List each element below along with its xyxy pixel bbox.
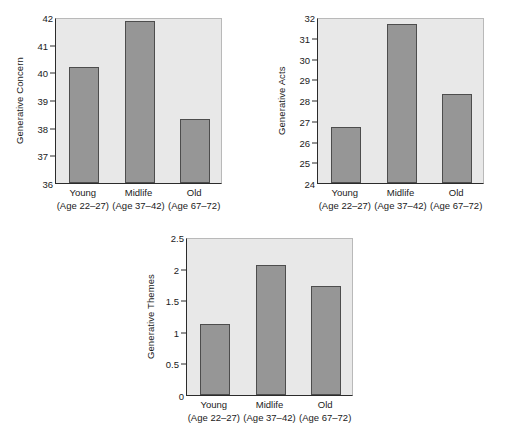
- bar: [256, 265, 286, 395]
- x-axis-tick: Old(Age 67–72): [430, 187, 482, 212]
- x-axis-category-sublabel: (Age 67–72): [168, 199, 220, 212]
- y-axis-tick: 25: [299, 158, 317, 169]
- y-axis-tick-label: 29: [299, 75, 312, 86]
- bar: [200, 324, 230, 395]
- y-axis-tick-label: 41: [37, 40, 50, 51]
- x-axis-tick: Midlife(Age 37–42): [112, 187, 164, 212]
- plot-area: [317, 18, 484, 184]
- bars-container: [56, 19, 221, 183]
- x-axis-category-sublabel: (Age 67–72): [430, 199, 482, 212]
- y-axis-tick: 28: [299, 96, 317, 107]
- y-axis-tick-label: 0.5: [166, 359, 181, 370]
- y-axis-tick: 27: [299, 116, 317, 127]
- y-axis-tick-label: 27: [299, 116, 312, 127]
- x-axis-tick: Young(Age 22–27): [57, 187, 109, 212]
- y-axis-tick: 40: [37, 68, 55, 79]
- x-axis-tick: Old(Age 67–72): [299, 399, 351, 424]
- x-axis-tick: Young(Age 22–27): [319, 187, 371, 212]
- y-axis-ticks: 242526272829303132: [284, 18, 317, 184]
- bars-container: [187, 239, 352, 395]
- y-axis-tick-label: 32: [304, 13, 317, 24]
- bar: [69, 67, 99, 183]
- x-axis-category-sublabel: (Age 37–42): [374, 199, 426, 212]
- y-axis-tick-label: 36: [42, 179, 55, 190]
- y-axis-tick: 30: [299, 54, 317, 65]
- y-axis-tick: 0.5: [166, 359, 186, 370]
- x-axis-tick: Old(Age 67–72): [168, 187, 220, 212]
- chart-generative-acts: Generative Acts 242526272829303132 Young…: [262, 0, 512, 215]
- x-axis-category-label: Young: [57, 187, 109, 199]
- y-axis-tick-label: 1: [174, 327, 181, 338]
- chart-generative-concern: Generative Concern 36373839404142 Young(…: [0, 0, 250, 215]
- bar: [180, 119, 210, 183]
- y-axis-tick-label: 28: [299, 96, 312, 107]
- x-axis-tick: Midlife(Age 37–42): [243, 399, 295, 424]
- y-axis-tick-label: 2.5: [171, 233, 186, 244]
- y-axis-tick-label: 42: [42, 13, 55, 24]
- y-axis-tick: 26: [299, 137, 317, 148]
- y-axis-tick-label: 30: [299, 54, 312, 65]
- bars-container: [318, 19, 483, 183]
- x-axis-category-label: Young: [319, 187, 371, 199]
- y-axis-tick: 42: [42, 13, 55, 24]
- y-axis-tick-label: 0: [179, 391, 186, 402]
- x-axis-category-label: Midlife: [112, 187, 164, 199]
- y-axis-tick-label: 37: [37, 151, 50, 162]
- x-axis-category-sublabel: (Age 22–27): [188, 411, 240, 424]
- bar: [387, 24, 417, 183]
- y-axis-tick: 0: [179, 391, 186, 402]
- x-axis-tick: Midlife(Age 37–42): [374, 187, 426, 212]
- plot-area: [186, 238, 353, 396]
- y-axis-tick-label: 26: [299, 137, 312, 148]
- x-axis-category-sublabel: (Age 67–72): [299, 411, 351, 424]
- y-axis-tick: 39: [37, 96, 55, 107]
- y-axis-tick-label: 38: [37, 123, 50, 134]
- x-axis-category-label: Old: [168, 187, 220, 199]
- x-axis-category-sublabel: (Age 22–27): [319, 199, 371, 212]
- y-axis-tick-label: 39: [37, 96, 50, 107]
- y-axis-tick-label: 2: [174, 264, 181, 275]
- y-axis-tick: 1: [174, 327, 186, 338]
- x-axis-tick: Young(Age 22–27): [188, 399, 240, 424]
- y-axis-tick-label: 25: [299, 158, 312, 169]
- y-axis-tick-label: 40: [37, 68, 50, 79]
- x-axis-category-label: Midlife: [374, 187, 426, 199]
- y-axis-tick: 37: [37, 151, 55, 162]
- y-axis-tick: 38: [37, 123, 55, 134]
- y-axis-ticks: 36373839404142: [22, 18, 55, 184]
- y-axis-tick: 1.5: [166, 296, 186, 307]
- chart-generative-themes: Generative Themes 00.511.522.5 Young(Age…: [131, 228, 381, 438]
- y-axis-tick-label: 24: [304, 179, 317, 190]
- bar: [331, 127, 361, 183]
- x-axis-category-sublabel: (Age 22–27): [57, 199, 109, 212]
- y-axis-tick: 32: [304, 13, 317, 24]
- x-axis-category-label: Young: [188, 399, 240, 411]
- plot-area: [55, 18, 222, 184]
- y-axis-tick: 29: [299, 75, 317, 86]
- y-axis-tick-label: 1.5: [166, 296, 181, 307]
- bar: [311, 286, 341, 395]
- y-axis-tick-label: 31: [299, 33, 312, 44]
- y-axis-tick: 31: [299, 33, 317, 44]
- bar: [442, 94, 472, 183]
- y-axis-tick: 36: [42, 179, 55, 190]
- x-axis-category-sublabel: (Age 37–42): [243, 411, 295, 424]
- y-axis-tick: 2: [174, 264, 186, 275]
- bar: [125, 21, 155, 183]
- y-axis-ticks: 00.511.522.5: [151, 238, 186, 396]
- y-axis-tick: 41: [37, 40, 55, 51]
- y-axis-tick: 24: [304, 179, 317, 190]
- x-axis-category-label: Old: [299, 399, 351, 411]
- y-axis-tick: 2.5: [171, 233, 186, 244]
- x-axis-category-label: Midlife: [243, 399, 295, 411]
- x-axis-category-sublabel: (Age 37–42): [112, 199, 164, 212]
- x-axis-category-label: Old: [430, 187, 482, 199]
